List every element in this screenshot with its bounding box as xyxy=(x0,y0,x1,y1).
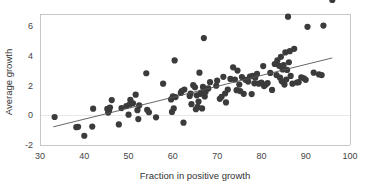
x-axis-tick-labels: 30405060708090100 xyxy=(35,151,358,161)
data-point xyxy=(81,133,87,139)
data-point xyxy=(133,92,139,98)
data-point xyxy=(286,59,292,65)
y-axis-title: Average growth xyxy=(3,49,14,115)
data-point xyxy=(265,80,271,86)
data-point xyxy=(130,100,136,106)
y-tick-label: -2 xyxy=(25,140,33,150)
data-point xyxy=(201,35,207,41)
data-point xyxy=(172,57,178,63)
y-tick-label: 6 xyxy=(28,21,33,31)
data-point xyxy=(214,78,220,84)
data-point xyxy=(288,73,294,79)
data-point xyxy=(192,84,198,90)
chart-canvas: 30405060708090100 -20246 Fraction in pos… xyxy=(0,0,370,185)
scatter-chart: 30405060708090100 -20246 Fraction in pos… xyxy=(0,0,370,185)
data-point xyxy=(135,116,141,122)
x-tick-label: 70 xyxy=(212,151,222,161)
data-point xyxy=(146,109,152,115)
y-tick-label: 4 xyxy=(28,51,33,61)
x-tick-label: 60 xyxy=(168,151,178,161)
data-point xyxy=(143,70,149,76)
x-tick-label: 50 xyxy=(124,151,134,161)
x-tick-label: 40 xyxy=(79,151,89,161)
data-point xyxy=(320,23,326,29)
data-point xyxy=(225,87,231,93)
trend-line xyxy=(53,58,332,127)
x-tick-label: 90 xyxy=(301,151,311,161)
data-point xyxy=(199,105,205,111)
data-point xyxy=(303,77,309,83)
data-point xyxy=(329,0,335,3)
data-point xyxy=(171,105,177,111)
data-point xyxy=(195,98,201,104)
data-point xyxy=(249,91,255,97)
data-point xyxy=(285,14,291,20)
data-point xyxy=(311,70,317,76)
data-point xyxy=(160,81,166,87)
data-point xyxy=(223,99,229,105)
data-point xyxy=(89,123,95,129)
y-tick-label: 2 xyxy=(28,81,33,91)
data-point xyxy=(319,72,325,78)
y-axis-tick-labels: -20246 xyxy=(25,21,33,150)
x-axis-title: Fraction in positive growth xyxy=(140,170,250,181)
data-point xyxy=(75,124,81,130)
data-point xyxy=(207,79,213,85)
data-point xyxy=(291,46,297,52)
data-point xyxy=(52,114,58,120)
data-point xyxy=(236,81,242,87)
data-point xyxy=(234,67,240,73)
data-points-group xyxy=(52,0,336,139)
x-tick-label: 30 xyxy=(35,151,45,161)
data-point xyxy=(188,101,194,107)
trend-line-segment xyxy=(53,58,332,127)
data-point xyxy=(116,121,122,127)
x-tick-label: 100 xyxy=(342,151,357,161)
data-point xyxy=(125,112,131,118)
data-point xyxy=(220,74,226,80)
y-tick-label: 0 xyxy=(28,110,33,120)
data-point xyxy=(153,114,159,120)
data-point xyxy=(241,91,247,97)
data-point xyxy=(107,104,113,110)
x-tick-label: 80 xyxy=(256,151,266,161)
data-point xyxy=(180,120,186,126)
data-point xyxy=(278,54,284,60)
data-point xyxy=(304,24,310,30)
data-point xyxy=(269,87,275,93)
data-point xyxy=(260,63,266,69)
data-point xyxy=(90,106,96,112)
data-point xyxy=(109,97,115,103)
data-point xyxy=(196,70,202,76)
data-point xyxy=(181,87,187,93)
